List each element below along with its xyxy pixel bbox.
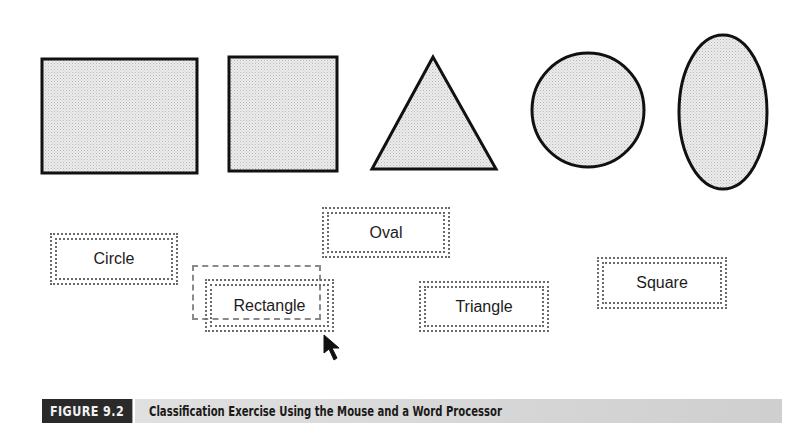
square-shape[interactable]	[229, 57, 337, 171]
oval-shape[interactable]	[679, 35, 767, 189]
triangle-label: Triangle	[424, 286, 544, 327]
oval-label-box[interactable]: Oval	[322, 207, 450, 258]
triangle-shape[interactable]	[372, 57, 496, 169]
figure-caption: FIGURE 9.2 Classification Exercise Using…	[42, 399, 782, 423]
circle-shape[interactable]	[532, 53, 644, 167]
figure-title: Classification Exercise Using the Mouse …	[149, 403, 502, 419]
circle-label: Circle	[55, 238, 173, 280]
rectangle-label-box[interactable]: Rectangle	[205, 279, 334, 332]
mouse-pointer-icon	[322, 333, 344, 363]
figure-title-bar: Classification Exercise Using the Mouse …	[135, 399, 782, 423]
circle-label-box[interactable]: Circle	[50, 233, 178, 285]
triangle-label-box[interactable]: Triangle	[419, 281, 549, 332]
oval-label: Oval	[327, 212, 445, 253]
rectangle-label: Rectangle	[210, 284, 329, 327]
rectangle-shape[interactable]	[42, 59, 197, 173]
square-label: Square	[602, 262, 722, 304]
classification-exercise-canvas: Circle Oval Rectangle Triangle Square FI…	[0, 0, 810, 436]
square-label-box[interactable]: Square	[597, 257, 727, 309]
figure-number: FIGURE 9.2	[42, 399, 132, 423]
